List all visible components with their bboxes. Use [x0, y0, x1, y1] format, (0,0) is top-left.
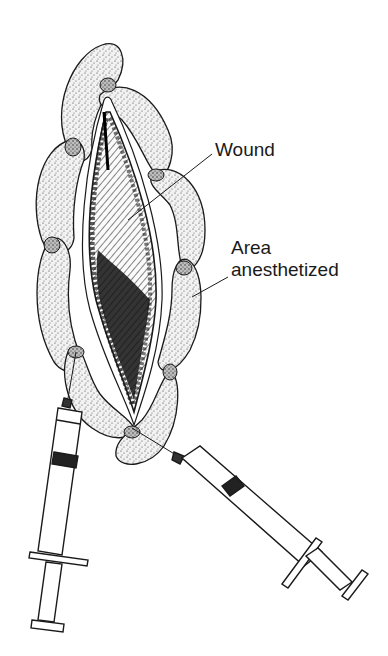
right-plunger-rod	[306, 548, 352, 590]
area-label-line1: Area	[231, 237, 339, 259]
right-syringe-barrel	[182, 446, 322, 566]
area-anesthetized-label: Area anesthetized	[231, 237, 339, 281]
left-plunger-rod	[38, 562, 62, 622]
right-syringe	[132, 428, 368, 600]
area-label-line2: anesthetized	[231, 259, 339, 281]
lobe-mid-left	[36, 140, 84, 254]
left-syringe-barrel	[38, 408, 82, 555]
lobe-lower-right	[158, 259, 201, 370]
wound-anesthesia-illustration	[0, 0, 388, 656]
left-plunger-cap	[31, 620, 64, 632]
wound-label: Wound	[215, 139, 275, 161]
